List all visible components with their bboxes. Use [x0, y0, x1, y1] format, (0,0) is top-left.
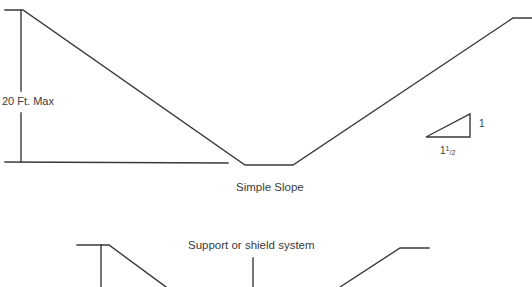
slope-rise-label: 1	[479, 119, 485, 129]
simple-slope-profile	[5, 10, 532, 165]
shield-left-profile	[77, 245, 166, 287]
slope-ratio-triangle	[426, 114, 470, 137]
simple-slope-caption: Simple Slope	[236, 182, 304, 194]
dimension-baseline	[5, 162, 228, 163]
support-shield-label: Support or shield system	[188, 240, 315, 252]
slope-run-label: 11/2	[440, 145, 455, 156]
shield-right-profile	[340, 248, 429, 287]
excavation-slope-figure: 20 Ft. Max Simple Slope 1 11/2 Support o…	[0, 0, 532, 287]
max-depth-label: 20 Ft. Max	[2, 94, 54, 109]
slope-run-denominator: 2	[451, 149, 455, 156]
